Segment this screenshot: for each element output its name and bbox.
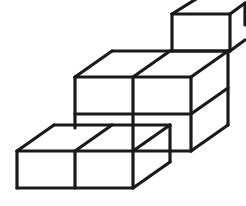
face-top-cube-front	[172, 14, 230, 51]
face-mid-front-r1c2	[133, 77, 191, 114]
face-low-front-right	[75, 151, 133, 188]
face-mid-front-r1c1	[75, 77, 133, 114]
isometric-cube-figure: Isometric cube stack Line drawing of a s…	[0, 0, 246, 206]
cube-stack-drawing	[0, 0, 246, 206]
face-low-front-left	[17, 151, 75, 188]
